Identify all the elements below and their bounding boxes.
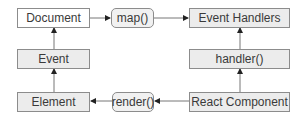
node-render: render(): [112, 92, 154, 112]
node-label: Event Handlers: [198, 11, 280, 25]
node-map: map(): [111, 8, 154, 28]
node-label: render(): [112, 95, 155, 109]
node-element: Element: [17, 92, 90, 112]
node-label: map(): [117, 11, 148, 25]
node-react-component: React Component: [189, 92, 290, 112]
node-label: Element: [31, 95, 75, 109]
node-label: handler(): [215, 52, 263, 66]
node-handler: handler(): [189, 49, 290, 69]
node-label: Document: [26, 11, 81, 25]
node-event-handlers: Event Handlers: [189, 8, 290, 28]
node-document: Document: [17, 8, 90, 28]
node-label: Event: [38, 52, 69, 66]
node-label: React Component: [191, 95, 288, 109]
node-event: Event: [17, 49, 90, 69]
